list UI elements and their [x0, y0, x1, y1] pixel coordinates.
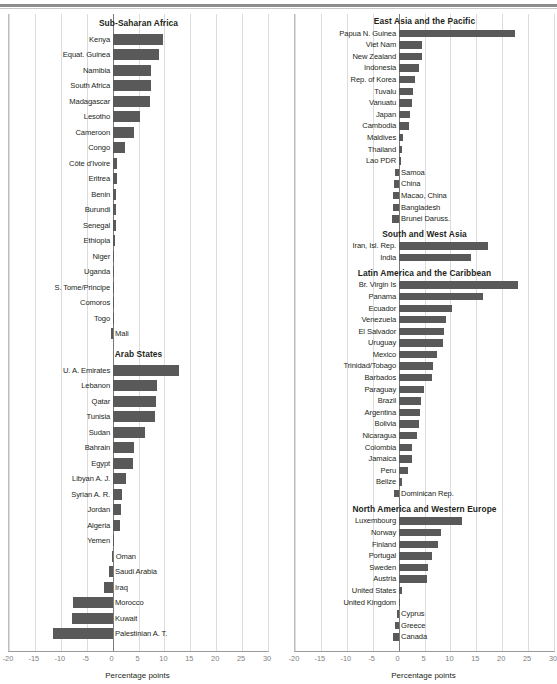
x-tick-label: -15	[315, 654, 326, 663]
bar-row: South Africa	[9, 78, 268, 94]
category-label: New Zealand	[352, 51, 398, 63]
category-label: Argentina	[365, 407, 399, 419]
category-label: Trinidad/Tobago	[343, 360, 398, 372]
category-label: Luxembourg	[355, 515, 399, 527]
bar-row: Madagascar	[9, 94, 268, 110]
bar	[399, 157, 402, 164]
category-label: Burundi	[85, 202, 113, 218]
category-label: United States	[352, 585, 399, 597]
category-label: Iran, Isl. Rep.	[352, 240, 398, 252]
bar-row: India	[295, 252, 554, 264]
right-axis-title: Percentage points	[294, 671, 553, 680]
section-header: South and West Asia	[295, 229, 554, 241]
bar	[399, 409, 420, 416]
x-tick-label: -20	[3, 654, 14, 663]
category-label: Vanuatu	[369, 97, 399, 109]
x-tick-label: 25	[523, 654, 531, 663]
bar-row: Portugal	[295, 550, 554, 562]
category-label: Ethiopia	[83, 233, 112, 249]
bar-row: Benin	[9, 187, 268, 203]
bar-row: Ecuador	[295, 303, 554, 315]
bar-row: Greece	[295, 620, 554, 632]
bar-row: Luxembourg	[295, 515, 554, 527]
bar	[399, 587, 402, 594]
bar	[72, 613, 113, 624]
bar	[399, 467, 408, 474]
bar-row: Lao PDR	[295, 155, 554, 167]
bar-row: Kenya	[9, 32, 268, 48]
bar	[399, 351, 437, 358]
category-label: Tuvalu	[374, 86, 398, 98]
bar-row: U. A. Emirates	[9, 363, 268, 379]
category-label: Yemen	[87, 533, 112, 549]
category-label: Oman	[113, 549, 136, 565]
bar-row: Iran, Isl. Rep.	[295, 240, 554, 252]
bar-row: Cyprus	[295, 608, 554, 620]
category-label: Niger	[92, 249, 112, 265]
x-tick-label: 20	[497, 654, 505, 663]
category-label: Peru	[380, 465, 398, 477]
bar-row: Nicaragua	[295, 430, 554, 442]
section-header: North America and Western Europe	[295, 504, 554, 516]
category-label: Brazil	[378, 395, 399, 407]
section-header: Latin America and the Caribbean	[295, 268, 554, 280]
bar-row: Japan	[295, 109, 554, 121]
bar	[399, 328, 445, 335]
bar	[113, 504, 122, 515]
bar-row: Algeria	[9, 518, 268, 534]
bar	[399, 111, 410, 118]
category-label: United Kingdom	[343, 597, 398, 609]
bar-row: Vanuatu	[295, 97, 554, 109]
bar	[113, 297, 115, 308]
bar	[113, 458, 133, 469]
bar	[399, 146, 403, 153]
category-label: Tunisia	[87, 409, 113, 425]
bar	[399, 88, 414, 95]
bar	[399, 305, 453, 312]
bar	[399, 134, 403, 141]
bar-row: Palestinian A. T.	[9, 626, 268, 642]
category-label: Equat. Guinea	[63, 47, 113, 63]
bar-row: Côte d'Ivoire	[9, 156, 268, 172]
bar	[113, 427, 145, 438]
category-label: S. Tome/Principe	[54, 280, 112, 296]
bar-row: Belize	[295, 476, 554, 488]
category-label: Papua N. Guinea	[339, 28, 398, 40]
bar-row: Senegal	[9, 218, 268, 234]
bar	[113, 489, 122, 500]
bar	[113, 535, 115, 546]
bar	[399, 444, 412, 451]
bar	[399, 316, 447, 323]
category-label: Austria	[373, 573, 398, 585]
bar	[399, 122, 410, 129]
bar-row: Samoa	[295, 167, 554, 179]
bar-row: United States	[295, 585, 554, 597]
bar	[113, 111, 140, 122]
bar-row: Bangladesh	[295, 202, 554, 214]
gridline	[268, 14, 269, 651]
category-label: Saudi Arabia	[113, 564, 157, 580]
x-tick-label: 30	[263, 654, 271, 663]
category-label: Canada	[399, 631, 428, 643]
bar	[399, 599, 401, 606]
bar-row: Bahrain	[9, 440, 268, 456]
category-label: Finland	[372, 539, 399, 551]
bar-row: Togo	[9, 311, 268, 327]
bar	[399, 575, 427, 582]
bar	[113, 65, 152, 76]
x-tick-label: 5	[135, 654, 139, 663]
bar	[399, 564, 428, 571]
bar	[399, 386, 425, 393]
category-label: Sudan	[89, 425, 113, 441]
x-tick-label: 5	[421, 654, 425, 663]
category-label: Japan	[376, 109, 399, 121]
bar	[399, 432, 417, 439]
bar	[399, 420, 419, 427]
category-label: Cyprus	[399, 608, 425, 620]
category-label: Kenya	[89, 32, 113, 48]
category-label: Comoros	[80, 295, 113, 311]
bar	[113, 313, 115, 324]
x-tick-label: 25	[237, 654, 245, 663]
bar	[113, 442, 134, 453]
bar-row: Iraq	[9, 580, 268, 596]
